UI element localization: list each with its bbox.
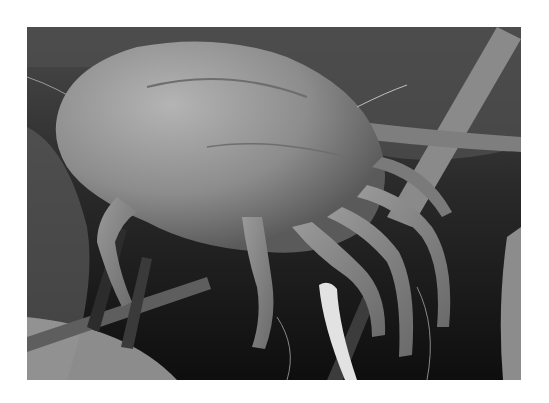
- sem-micrograph: Grayscale SEM image of a dust mite cling…: [27, 27, 521, 380]
- dust-mite-illustration: [27, 27, 521, 380]
